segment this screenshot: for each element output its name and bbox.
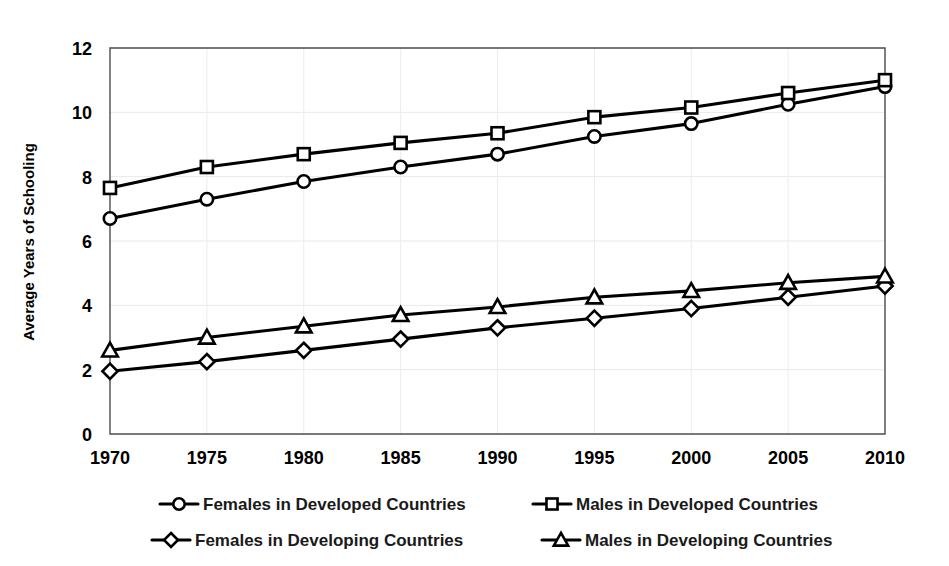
data-point-square [201,161,213,173]
legend-label: Females in Developing Countries [195,531,463,550]
x-tick-label: 1995 [574,448,614,468]
data-point-square [685,102,697,114]
x-tick-label: 2005 [768,448,808,468]
data-point-square [492,127,504,139]
data-point-diamond [296,343,311,358]
gridlines [110,48,885,434]
legend-item[interactable]: Females in Developing Countries [152,531,463,550]
data-point-square [588,111,600,123]
x-tick-label: 1990 [477,448,517,468]
y-tick-label: 4 [82,296,92,316]
x-tick-label: 2010 [865,448,905,468]
chart-canvas: 024681012 197019751980198519901995200020… [0,0,949,566]
y-tick-label: 8 [82,168,92,188]
data-point-circle [491,148,503,160]
legend-item[interactable]: Females in Developed Countries [160,495,466,514]
data-point-diamond [102,364,117,379]
data-point-circle [298,175,310,187]
data-point-triangle [554,533,568,546]
y-axis-title: Average Years of Schooling [20,143,37,341]
data-point-circle [201,193,213,205]
legend-label: Males in Developed Countries [576,495,818,514]
data-point-diamond [490,320,505,335]
x-tick-label: 2000 [671,448,711,468]
x-tick-label: 1975 [187,448,227,468]
data-point-diamond [164,533,178,547]
data-point-diamond [587,311,602,326]
y-tick-label: 0 [82,425,92,445]
data-point-square [104,182,116,194]
chart-legend: Females in Developed CountriesMales in D… [152,495,833,550]
data-point-circle [173,498,184,509]
data-point-diamond [684,301,699,316]
x-tick-label: 1985 [381,448,421,468]
data-point-circle [104,212,116,224]
data-point-circle [685,117,697,129]
x-tick-label: 1970 [90,448,130,468]
legend-item[interactable]: Males in Developing Countries [542,531,833,550]
data-point-diamond [199,354,214,369]
data-point-square [546,498,557,509]
data-point-diamond [781,290,796,305]
legend-label: Females in Developed Countries [203,495,466,514]
y-tick-label: 2 [82,361,92,381]
y-tick-label: 10 [72,103,92,123]
data-point-square [298,148,310,160]
x-tick-label: 1980 [284,448,324,468]
data-point-square [782,87,794,99]
data-point-square [879,74,891,86]
data-point-circle [588,130,600,142]
x-tick-labels: 197019751980198519901995200020052010 [90,448,905,468]
data-point-circle [394,161,406,173]
legend-label: Males in Developing Countries [585,531,833,550]
y-tick-labels: 024681012 [72,39,92,445]
y-tick-label: 6 [82,232,92,252]
data-point-square [395,137,407,149]
y-tick-label: 12 [72,39,92,59]
data-point-diamond [393,332,408,347]
line-chart: 024681012 197019751980198519901995200020… [0,0,949,566]
legend-item[interactable]: Males in Developed Countries [533,495,818,514]
